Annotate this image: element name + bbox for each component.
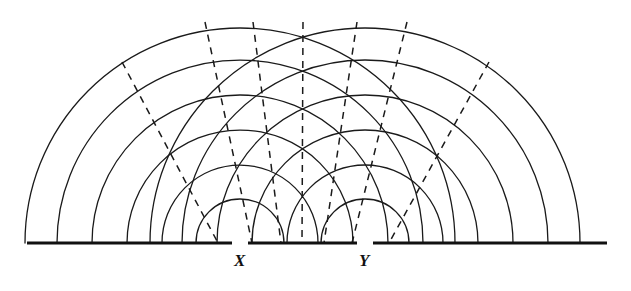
wavefront-arc-Y-1 [321, 199, 409, 243]
nodal-line-n0 [302, 22, 303, 243]
source-label-x: X [234, 252, 245, 269]
wavefront-arc-Y-4 [217, 95, 513, 243]
wavefront-arc-Y-3 [252, 130, 478, 243]
figure-canvas: X Y [0, 0, 631, 291]
nodal-line-n3 [389, 62, 489, 243]
wave-interference-figure [0, 0, 631, 291]
nodal-line-n2 [352, 22, 407, 243]
wavefront-arc-X-3 [127, 130, 353, 243]
source-label-y: Y [359, 252, 369, 269]
wavefront-arc-X-2 [162, 165, 318, 243]
nodal-line-n-2 [205, 22, 252, 243]
wavefront-arc-X-4 [92, 95, 388, 243]
nodal-lines-group [122, 22, 489, 243]
wavefront-arc-X-5 [57, 60, 423, 243]
wavefront-arc-X-1 [196, 199, 284, 243]
wavefront-arc-Y-5 [182, 60, 548, 243]
wavefront-arc-Y-2 [287, 165, 443, 243]
